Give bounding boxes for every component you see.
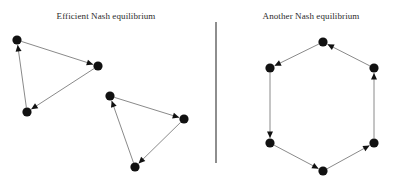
hexagon-cycle-node-C4[interactable] [318,166,327,175]
hexagon-cycle-edge-C5-to-C4 [274,145,318,168]
triangle-upper-left-arrowhead-A2-to-A3 [31,103,38,109]
triangle-upper-left-node-A2[interactable] [93,61,102,70]
triangle-upper-left-edge-A3-to-A1 [18,45,27,107]
triangle-upper-left-arrowhead-A1-to-A2 [86,60,93,66]
hexagon-cycle-node-C3[interactable] [369,138,378,147]
hexagon-cycle-edge-C4-to-C3 [327,145,370,168]
figure-root: Efficient Nash equilibrium Another Nash … [0,0,400,183]
triangle-lower-right-nodes [105,91,188,171]
triangle-upper-left-arrowhead-A3-to-A1 [16,45,22,52]
panel-another-nash-equilibrium: Another Nash equilibrium [222,0,400,183]
hexagon-cycle-arrowhead-C6-to-C5 [267,132,273,139]
hexagon-cycle-nodes [265,37,378,175]
triangle-upper-left-edge-A1-to-A2 [21,41,93,64]
triangle-lower-right-edge-B2-to-B3 [139,122,181,163]
hexagon-cycle-edges [270,44,374,169]
hexagon-cycle-edge-C1-to-C6 [275,44,319,66]
triangle-lower-right-arrowhead-B1-to-B2 [172,113,179,119]
triangle-lower-right-edge-B1-to-B2 [114,97,179,117]
triangle-upper-left-edge-A2-to-A3 [31,69,94,110]
triangle-lower-right-arrowheads [111,101,179,164]
hexagon-cycle-edge-C2-to-C1 [328,44,370,66]
hexagon-cycle-node-C2[interactable] [369,63,378,72]
hexagon-cycle-node-C6[interactable] [265,63,274,72]
left-panel-graph [0,0,212,183]
triangle-lower-right-edge-B3-to-B1 [112,101,134,163]
triangle-lower-right-node-B3[interactable] [130,162,139,171]
hexagon-cycle-node-C5[interactable] [265,138,274,147]
triangle-lower-right-node-B1[interactable] [105,91,114,100]
triangle-upper-left-node-A1[interactable] [12,35,21,44]
triangle-upper-left-edges [18,41,94,109]
hexagon-cycle-arrowhead-C3-to-C2 [371,73,377,80]
triangle-lower-right-arrowhead-B3-to-B1 [111,101,117,108]
triangle-lower-right-node-B2[interactable] [179,114,188,123]
panel-efficient-nash-equilibrium: Efficient Nash equilibrium [0,0,212,183]
hexagon-cycle-node-C1[interactable] [318,37,327,46]
triangle-upper-left-node-A3[interactable] [22,107,31,116]
right-panel-graph [222,0,400,183]
panel-divider [215,22,217,163]
triangle-lower-right-edges [112,97,181,163]
